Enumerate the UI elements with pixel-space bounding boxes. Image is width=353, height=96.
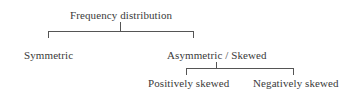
connector-skew-bar xyxy=(186,68,294,69)
connector-right-drop xyxy=(193,31,194,38)
connector-negative-drop xyxy=(293,68,294,75)
node-negatively-skewed: Negatively skewed xyxy=(253,77,339,89)
node-asymmetric-skewed: Asymmetric / Skewed xyxy=(167,49,267,61)
connector-left-drop xyxy=(48,31,49,38)
connector-root-bar xyxy=(48,31,194,32)
connector-positive-drop xyxy=(186,68,187,75)
node-positively-skewed: Positively skewed xyxy=(148,77,229,89)
node-frequency-distribution: Frequency distribution xyxy=(70,9,172,21)
node-symmetric: Symmetric xyxy=(24,49,73,61)
